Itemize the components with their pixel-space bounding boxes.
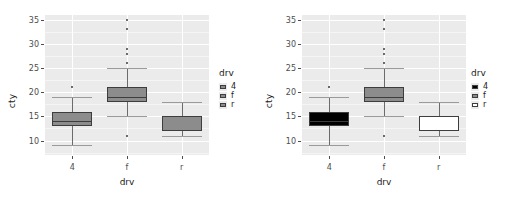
legend-key-icon (219, 83, 227, 91)
legend-items: 4fr (471, 82, 488, 109)
boxplot-median (309, 121, 349, 122)
legend-item[interactable]: f (219, 91, 236, 100)
x-axis-tick-mark (72, 156, 73, 159)
boxplot-outlier (126, 48, 128, 50)
x-axis-tick-label: r (424, 163, 454, 172)
boxplot-outlier (383, 48, 385, 50)
legend-title: drv (471, 68, 488, 78)
y-axis-tick-label: 30 (9, 40, 39, 49)
boxplot-whisker-cap (162, 136, 202, 137)
boxplot-box (162, 116, 202, 130)
boxplot-box (107, 87, 147, 101)
boxplot-median (419, 116, 459, 117)
y-axis-tick-mark (41, 44, 44, 45)
boxplot-whisker-cap (364, 68, 404, 69)
x-axis-tick-label: f (369, 163, 399, 172)
y-axis-tick-mark (298, 68, 301, 69)
legend-item[interactable]: r (471, 100, 488, 109)
boxplot-outlier (383, 19, 385, 21)
y-axis-title: cty (261, 0, 277, 201)
legend-swatch (220, 94, 226, 98)
boxplot-outlier (126, 53, 128, 55)
boxplot-median (162, 116, 202, 117)
legend-swatch (472, 85, 478, 89)
boxplot-whisker-cap (107, 116, 147, 117)
boxplot-whisker-cap (309, 145, 349, 146)
y-axis-tick-label: 15 (266, 112, 296, 121)
boxplot-box (309, 112, 349, 126)
boxplot-median (107, 97, 147, 98)
legend-key-icon (471, 101, 479, 109)
boxplot-whisker-cap (364, 116, 404, 117)
legend-key-icon (471, 92, 479, 100)
boxplot-box (364, 87, 404, 101)
legend-item[interactable]: r (219, 100, 236, 109)
legend-swatch (472, 94, 478, 98)
y-axis-tick-label: 30 (266, 40, 296, 49)
y-axis-tick-label: 25 (266, 64, 296, 73)
boxplot-whisker-cap (419, 102, 459, 103)
legend-item-label: f (483, 91, 486, 100)
boxplot-median (52, 121, 92, 122)
legend-swatch (220, 85, 226, 89)
legend-swatch (220, 103, 226, 107)
y-axis-tick-mark (298, 44, 301, 45)
figure-canvas: cty 1015202530354fr drv drv 4fr cty 1015… (0, 0, 514, 201)
x-axis-tick-mark (439, 156, 440, 159)
y-axis-tick-label: 20 (9, 88, 39, 97)
y-axis-tick-mark (298, 20, 301, 21)
legend-item-label: r (483, 100, 486, 109)
panel-right: cty 1015202530354fr drv drv 4fr (257, 0, 514, 201)
y-axis-tick-label: 10 (266, 137, 296, 146)
boxplot-box (52, 112, 92, 126)
boxplot-box (419, 116, 459, 130)
x-axis-tick-mark (329, 156, 330, 159)
legend-swatch (472, 103, 478, 107)
y-axis-tick-label: 35 (9, 16, 39, 25)
legend-item[interactable]: 4 (219, 82, 236, 91)
legend-key-icon (219, 92, 227, 100)
plot-area-right (302, 15, 466, 155)
y-axis-tick-mark (298, 116, 301, 117)
legend-item[interactable]: f (471, 91, 488, 100)
y-axis-tick-label: 35 (266, 16, 296, 25)
legend-left: drv 4fr (219, 68, 236, 109)
legend-items: 4fr (219, 82, 236, 109)
legend-title: drv (219, 68, 236, 78)
boxplot-whisker-cap (419, 136, 459, 137)
y-axis-tick-mark (298, 141, 301, 142)
boxplot-outlier (383, 135, 385, 137)
y-axis-tick-mark (41, 116, 44, 117)
boxplot-whisker-cap (162, 102, 202, 103)
y-axis-tick-label: 20 (266, 88, 296, 97)
y-axis-title: cty (4, 0, 20, 201)
y-axis-tick-mark (298, 92, 301, 93)
y-axis-tick-mark (41, 68, 44, 69)
x-axis-tick-label: 4 (314, 163, 344, 172)
x-axis-tick-label: 4 (57, 163, 87, 172)
legend-key-icon (219, 101, 227, 109)
x-axis-tick-mark (384, 156, 385, 159)
legend-item-label: 4 (231, 82, 236, 91)
legend-item-label: 4 (483, 82, 488, 91)
boxplot-whisker-cap (107, 68, 147, 69)
legend-item-label: r (231, 100, 234, 109)
x-axis-tick-label: f (112, 163, 142, 172)
legend-right: drv 4fr (471, 68, 488, 109)
y-axis-tick-mark (41, 92, 44, 93)
panel-left: cty 1015202530354fr drv drv 4fr (0, 0, 257, 201)
boxplot-outlier (126, 135, 128, 137)
y-axis-tick-mark (41, 141, 44, 142)
legend-item[interactable]: 4 (471, 82, 488, 91)
y-axis-tick-mark (41, 20, 44, 21)
legend-key-icon (471, 83, 479, 91)
legend-item-label: f (231, 91, 234, 100)
boxplot-outlier (383, 53, 385, 55)
x-axis-tick-mark (182, 156, 183, 159)
y-axis-tick-label: 15 (9, 112, 39, 121)
x-axis-title: drv (45, 177, 209, 187)
x-axis-title: drv (302, 177, 466, 187)
x-axis-tick-mark (127, 156, 128, 159)
boxplot-outlier (126, 19, 128, 21)
plot-area-left (45, 15, 209, 155)
